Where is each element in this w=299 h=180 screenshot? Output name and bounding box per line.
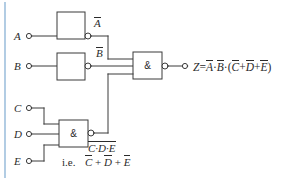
out-b-bar: B (217, 60, 224, 74)
terminal-output-z (182, 63, 187, 68)
bubble-nand-cde (88, 130, 94, 136)
terminal-input-b (26, 63, 31, 68)
cde-overline: C·D·E (88, 141, 116, 154)
b-bar-overline: B (96, 47, 103, 59)
output-expression: Z=A·B·(C+D+E) (193, 60, 271, 74)
out-e-bar: E (260, 60, 267, 74)
input-label-d: D (14, 129, 22, 140)
label-a-bar: A (94, 17, 101, 29)
terminal-input-a (26, 33, 31, 38)
out-a-bar: A (206, 60, 213, 74)
circuit-schematic (0, 0, 299, 180)
c-bar-term: C (85, 155, 92, 168)
plus-sign-2: + (115, 156, 121, 168)
d-bar-term: D (104, 155, 112, 168)
gate-box-not-b (57, 53, 85, 80)
a-bar-overline: A (94, 17, 101, 29)
label-b-bar: B (96, 47, 103, 59)
bubble-not-a (85, 33, 91, 39)
nand-gate-symbol: & (59, 128, 88, 139)
terminal-input-d (26, 131, 31, 136)
nand-output-expression: C·D·E (88, 141, 116, 154)
input-label-b: B (14, 61, 21, 72)
bubble-and-main (162, 63, 168, 69)
ie-prefix: i.e. (62, 156, 75, 168)
close-paren: ) (268, 61, 272, 73)
gate-box-not-a (57, 12, 85, 39)
e-bar-term: E (124, 155, 131, 168)
bubble-not-b (85, 63, 91, 69)
nand-output-expanded: i.e. C + D + E (62, 155, 130, 168)
logic-diagram-canvas: A B C D E & & A B C·D·E i.e. C + D + E Z… (0, 0, 299, 180)
input-label-e: E (14, 156, 21, 167)
and-gate-symbol: & (133, 60, 162, 71)
out-d-bar: D (246, 60, 254, 74)
out-c-bar: C (232, 60, 240, 74)
plus-sign-1: + (95, 156, 101, 168)
input-label-c: C (14, 103, 21, 114)
terminal-input-e (26, 158, 31, 163)
terminal-input-c (26, 105, 31, 110)
input-label-a: A (14, 31, 21, 42)
